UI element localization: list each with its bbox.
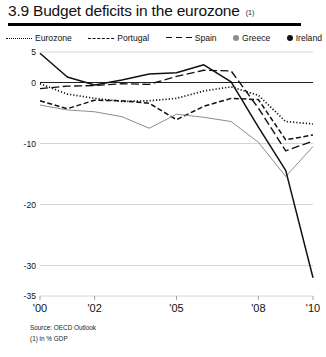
long-dash-line-icon bbox=[166, 34, 192, 42]
legend-item-spain: Spain bbox=[166, 33, 217, 43]
legend-item-portugal: Portugal bbox=[88, 33, 149, 43]
series-line-greece bbox=[40, 105, 313, 176]
chart-header: 3.9 Budget deficits in the eurozone (1) bbox=[8, 2, 318, 20]
unit-note: (1) in % GDP bbox=[30, 333, 310, 344]
source-note: Source: OECD Outlook bbox=[30, 322, 310, 333]
legend-item-ireland: Ireland bbox=[287, 33, 322, 43]
title-underline bbox=[8, 23, 301, 26]
y-axis-tick: -30 bbox=[24, 261, 36, 271]
dashed-line-icon bbox=[88, 34, 114, 42]
y-axis-tick: -10 bbox=[24, 139, 36, 149]
black-dot-icon bbox=[287, 35, 293, 41]
grey-dot-icon bbox=[233, 35, 239, 41]
x-axis-tick: '02 bbox=[87, 302, 101, 314]
x-axis-labels: '00'02'05'08'10 bbox=[0, 302, 326, 320]
x-axis-tick: '05 bbox=[169, 302, 183, 314]
line-chart-canvas bbox=[0, 48, 326, 308]
legend-label-spain: Spain bbox=[195, 33, 217, 43]
y-axis-tick: -35 bbox=[24, 291, 36, 301]
plot-area: 50-10-20-30-35 bbox=[0, 48, 326, 308]
y-axis-tick: -20 bbox=[24, 200, 36, 210]
page-title: 3.9 Budget deficits in the eurozone bbox=[8, 2, 240, 20]
x-axis-tick: '10 bbox=[306, 302, 320, 314]
legend-label-greece: Greece bbox=[242, 33, 270, 43]
y-axis-labels: 50-10-20-30-35 bbox=[0, 48, 38, 308]
x-axis-tick: '08 bbox=[251, 302, 265, 314]
legend-label-ireland: Ireland bbox=[296, 33, 322, 43]
legend-item-eurozone: Eurozone bbox=[6, 33, 72, 43]
x-axis-tick: '00 bbox=[33, 302, 47, 314]
legend-item-greece: Greece bbox=[233, 33, 270, 43]
series-line-ireland bbox=[40, 53, 313, 277]
legend-label-eurozone: Eurozone bbox=[35, 33, 72, 43]
title-footnote-marker: (1) bbox=[246, 9, 255, 16]
dotted-line-icon bbox=[6, 34, 32, 42]
y-axis-tick: 5 bbox=[31, 47, 36, 57]
legend-label-portugal: Portugal bbox=[117, 33, 149, 43]
series-line-portugal bbox=[40, 98, 313, 139]
y-axis-tick: 0 bbox=[31, 78, 36, 88]
chart-figure: 3.9 Budget deficits in the eurozone (1) … bbox=[0, 0, 326, 357]
chart-footnotes: Source: OECD Outlook (1) in % GDP bbox=[30, 322, 310, 344]
chart-legend: Eurozone Portugal Spain Greece Ireland bbox=[6, 30, 322, 46]
